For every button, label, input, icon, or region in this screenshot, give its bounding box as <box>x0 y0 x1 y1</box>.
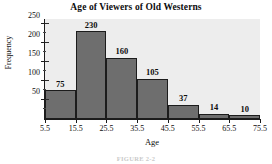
y-axis-tick-inner <box>45 61 49 62</box>
figure-caption: FIGURE 2-2 <box>0 155 272 162</box>
y-axis-minor-tick <box>43 32 46 33</box>
bar-value-label: 105 <box>137 67 168 77</box>
x-axis-label: Age <box>44 137 260 147</box>
x-axis-tick-label: 35.5 <box>130 124 144 133</box>
chart-title: Age of Viewers of Old Westerns <box>0 2 272 12</box>
x-axis-tick-label: 45.5 <box>161 124 175 133</box>
bar-value-label: 230 <box>76 20 107 30</box>
y-axis-label: Frequency <box>4 23 13 83</box>
y-axis-tick-label: 150 <box>28 48 40 57</box>
y-axis-tick-inner <box>45 42 49 43</box>
x-axis-tick <box>168 119 169 123</box>
bar-value-label: 14 <box>199 102 230 112</box>
histogram-bar <box>168 105 199 119</box>
y-axis-tick-inner <box>45 99 49 100</box>
x-axis-tick <box>137 119 138 123</box>
y-axis-tick-inner <box>45 80 49 81</box>
y-axis-minor-tick <box>43 108 46 109</box>
histogram-bar <box>199 114 230 119</box>
bar-value-label: 75 <box>45 79 76 89</box>
plot-area: 75230160105371410 501001502002505.515.52… <box>44 19 260 120</box>
x-axis-tick-label: 75.5 <box>253 124 267 133</box>
y-axis-minor-tick <box>43 51 46 52</box>
y-axis-tick-label: 50 <box>32 86 40 95</box>
x-axis-tick <box>199 119 200 123</box>
y-axis-minor-tick <box>43 70 46 71</box>
histogram-bar <box>106 58 137 119</box>
x-axis-tick-label: 65.5 <box>222 124 236 133</box>
histogram-bar <box>229 115 260 119</box>
y-axis-tick-label: 200 <box>28 29 40 38</box>
histogram-bar <box>137 79 168 119</box>
y-axis-tick-label: 100 <box>28 67 40 76</box>
x-axis-tick-label: 5.5 <box>40 124 50 133</box>
histogram-bar <box>76 31 107 119</box>
x-axis-tick-label: 15.5 <box>69 124 83 133</box>
x-axis-tick-label: 25.5 <box>99 124 113 133</box>
x-axis-tick <box>229 119 230 123</box>
bar-value-label: 10 <box>229 104 260 114</box>
x-axis-tick-label: 55.5 <box>192 124 206 133</box>
bars-layer: 75230160105371410 <box>45 19 260 119</box>
bar-value-label: 37 <box>168 93 199 103</box>
y-axis-tick-inner <box>45 23 49 24</box>
x-axis-tick <box>106 119 107 123</box>
histogram-bar <box>45 90 76 119</box>
x-axis-tick <box>76 119 77 123</box>
figure-container: Age of Viewers of Old Westerns Frequency… <box>0 0 272 164</box>
x-axis-tick <box>260 119 261 123</box>
x-axis-tick <box>45 119 46 123</box>
y-axis-tick-label: 250 <box>28 10 40 19</box>
bar-value-label: 160 <box>106 46 137 56</box>
y-axis-minor-tick <box>43 89 46 90</box>
